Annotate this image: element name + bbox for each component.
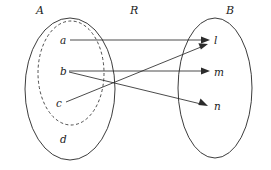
diagram-canvas: [0, 0, 271, 170]
set-b-label: B: [226, 5, 234, 16]
element-label-n: n: [214, 101, 221, 112]
set-a-label: A: [36, 5, 44, 16]
relation-label: R: [130, 5, 138, 16]
element-label-l: l: [214, 35, 217, 46]
element-label-d: d: [60, 134, 67, 145]
edge-b-to-n: [69, 72, 208, 106]
element-label-c: c: [56, 98, 62, 109]
element-label-m: m: [214, 67, 224, 78]
set-a-ellipse: [25, 18, 115, 160]
subset-dashed-ellipse: [38, 21, 104, 125]
element-label-a: a: [60, 35, 66, 46]
edge-c-to-l: [66, 43, 208, 102]
element-label-b: b: [60, 66, 67, 77]
relation-diagram: A R B a b c d l m n: [0, 0, 271, 170]
edge-b-to-m: [69, 68, 210, 75]
